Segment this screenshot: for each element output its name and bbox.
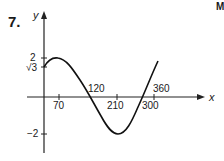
y-tick-sqrt3: √3 [26, 63, 37, 73]
x-axis-arrow-icon [197, 94, 205, 100]
y-tick-neg2: −2 [27, 129, 38, 139]
x-tick-120: 120 [88, 84, 105, 94]
y-axis-arrow-icon [41, 11, 47, 19]
x-tick-70: 70 [53, 101, 64, 111]
sine-curve [44, 58, 158, 134]
x-axis-label: x [209, 92, 215, 103]
x-tick-300: 300 [142, 101, 159, 111]
x-tick-210: 210 [107, 101, 124, 111]
y-axis-label: y [33, 10, 39, 21]
x-tick-360: 360 [153, 84, 170, 94]
